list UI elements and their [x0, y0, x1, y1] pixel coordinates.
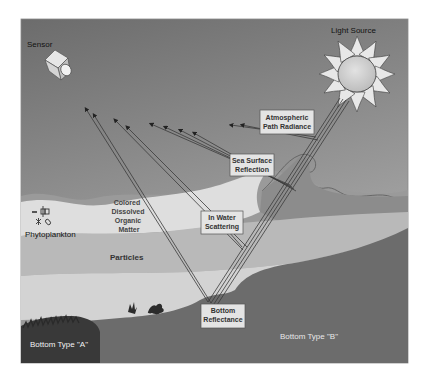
cdom-label-line-2: Dissolved	[111, 208, 144, 215]
bottom-type-b-label: Bottom Type "B"	[280, 332, 338, 341]
sensor-label: Sensor	[27, 40, 53, 49]
bottom-type-a-label: Bottom Type "A"	[30, 340, 88, 349]
light-source-label: Light Source	[331, 26, 376, 35]
in-water-scattering-label-1: In Water	[208, 214, 236, 221]
atmospheric-path-radiance-box: Atmospheric Path Radiance	[260, 110, 314, 134]
ocean-optics-diagram: Sensor Light Source	[0, 0, 432, 379]
cdom-label-line-3: Organic	[115, 217, 142, 225]
cdom-label-line-1: Colored	[114, 199, 140, 206]
in-water-scattering-label-2: Scattering	[205, 223, 239, 231]
in-water-scattering-box: In Water Scattering	[201, 211, 243, 234]
sea-surface-reflection-box: Sea Surface Reflection	[230, 154, 274, 176]
phytoplankton-label: Phytoplankton	[25, 230, 76, 239]
bottom-reflectance-label-1: Bottom	[211, 307, 236, 314]
bottom-reflectance-box: Bottom Reflectance	[201, 304, 245, 328]
bottom-reflectance-label-2: Reflectance	[203, 316, 242, 323]
particles-label: Particles	[110, 253, 144, 262]
cdom-label-line-4: Matter	[118, 226, 139, 233]
atmospheric-path-radiance-label-2: Path Radiance	[263, 123, 311, 130]
atmospheric-path-radiance-label-1: Atmospheric	[266, 114, 309, 122]
sea-surface-reflection-label-2: Reflection	[235, 166, 269, 173]
sea-surface-reflection-label-1: Sea Surface	[232, 157, 272, 164]
